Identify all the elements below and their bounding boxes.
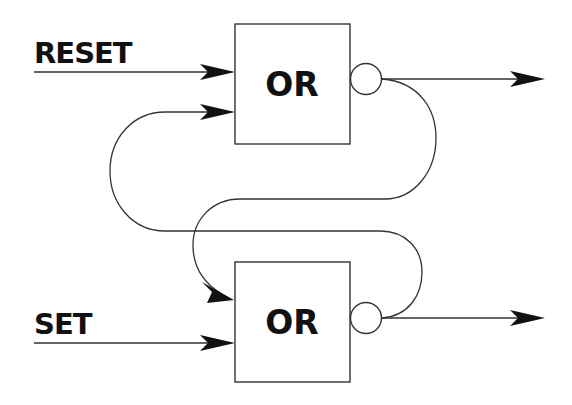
set-label: SET — [34, 307, 93, 341]
reset-label: RESET — [34, 36, 133, 70]
top-gate-label: OR — [265, 65, 318, 104]
sr-latch-diagram: RESET OR OR SET — [0, 0, 572, 405]
bottom-gate-label: OR — [265, 303, 318, 342]
bottom-feedback-arrow-icon — [202, 282, 234, 303]
bottom-inverter-bubble — [351, 303, 382, 334]
top-inverter-bubble — [351, 64, 382, 95]
